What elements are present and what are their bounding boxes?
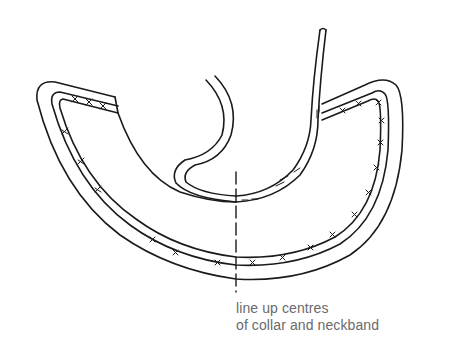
annotation-line-2: of collar and neckband (236, 317, 379, 334)
collar-outline (174, 29, 326, 203)
collar-neckband-drawing (0, 0, 460, 356)
diagram-canvas: line up centres of collar and neckband (0, 0, 460, 356)
centre-annotation: line up centres of collar and neckband (236, 300, 379, 334)
annotation-line-1: line up centres (236, 300, 379, 317)
stitch-marks (62, 96, 384, 265)
neckband-outline (37, 80, 403, 280)
